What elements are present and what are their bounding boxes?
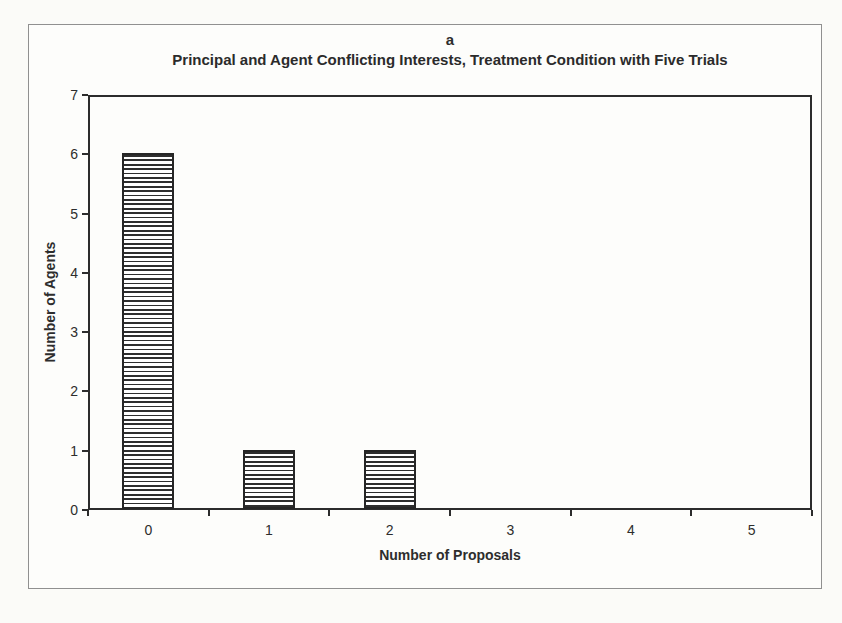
y-tick-label: 7 — [48, 88, 78, 102]
y-axis-title: Number of Agents — [42, 242, 58, 363]
x-tick-mark — [690, 510, 692, 516]
scanned-page: a Principal and Agent Conflicting Intere… — [0, 0, 842, 623]
y-tick-mark — [82, 153, 88, 155]
x-tick-mark — [811, 510, 813, 516]
y-tick-mark — [82, 331, 88, 333]
bar-proposals-1 — [243, 450, 295, 509]
x-tick-label: 0 — [128, 523, 168, 537]
x-tick-label: 5 — [732, 523, 772, 537]
bar-proposals-0 — [122, 153, 174, 509]
y-tick-mark — [82, 390, 88, 392]
y-tick-label: 4 — [48, 266, 78, 280]
x-tick-mark — [449, 510, 451, 516]
y-tick-label: 3 — [48, 325, 78, 339]
y-tick-label: 1 — [48, 444, 78, 458]
chart-title: Principal and Agent Conflicting Interest… — [60, 51, 840, 68]
x-tick-mark — [208, 510, 210, 516]
x-tick-label: 4 — [611, 523, 651, 537]
y-tick-label: 0 — [48, 503, 78, 517]
x-tick-mark — [328, 510, 330, 516]
y-tick-label: 5 — [48, 207, 78, 221]
y-tick-mark — [82, 213, 88, 215]
x-tick-label: 3 — [490, 523, 530, 537]
y-tick-label: 2 — [48, 384, 78, 398]
y-tick-mark — [82, 94, 88, 96]
x-tick-mark — [87, 510, 89, 516]
panel-label: a — [88, 31, 812, 48]
y-tick-label: 6 — [48, 147, 78, 161]
bar-proposals-2 — [364, 450, 416, 509]
y-tick-mark — [82, 450, 88, 452]
y-tick-mark — [82, 272, 88, 274]
x-tick-label: 1 — [249, 523, 289, 537]
x-tick-label: 2 — [370, 523, 410, 537]
x-axis-title: Number of Proposals — [88, 547, 812, 563]
plot-area — [88, 95, 812, 510]
x-tick-mark — [570, 510, 572, 516]
